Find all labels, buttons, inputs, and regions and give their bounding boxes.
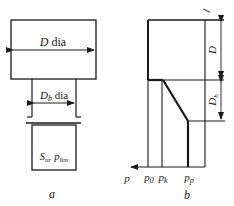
tick-label-p0: p0	[143, 171, 154, 185]
base-label: Snrplim	[40, 151, 69, 164]
stem-diameter-label: Db dia	[39, 89, 68, 103]
top-label-l: l	[201, 7, 212, 14]
dim-Db-label: Db	[206, 94, 220, 107]
pressure-profile-diagonal	[163, 80, 188, 121]
upper-diameter-label: D dia	[39, 35, 67, 49]
dim-D-label: D	[206, 46, 218, 55]
lower-block	[32, 125, 76, 170]
tick-label-pk: pk	[157, 171, 168, 185]
diagram-canvas: D dia Db dia Snrplim a l	[0, 0, 234, 206]
caption-a: a	[49, 187, 55, 201]
tick-label-pp: pp	[183, 171, 194, 185]
figure-b: l D Db p p0 pk pp b	[123, 7, 225, 202]
axis-label-p: p	[123, 172, 130, 184]
figure-a: D dia Db dia Snrplim a	[11, 20, 96, 201]
caption-b: b	[184, 188, 190, 202]
